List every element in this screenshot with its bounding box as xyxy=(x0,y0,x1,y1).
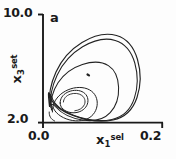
entry-tail xyxy=(49,112,54,121)
x-axis-tick-label-min: 0.0 xyxy=(28,130,49,143)
y-axis-tick-label-min: 2.0 xyxy=(7,113,28,126)
y-axis-tick-label-max: 10.0 xyxy=(3,7,32,20)
y-axis-title-base: x xyxy=(9,75,24,83)
y-axis-title-subscript: 3 xyxy=(16,69,26,75)
x-axis-title-subscript: 1 xyxy=(104,139,110,149)
x-axis-title: x1sel xyxy=(96,133,124,148)
x-axis-title-superscript: sel xyxy=(111,132,124,142)
y-axis-title: x3set xyxy=(10,46,25,92)
inner-orbit-inner-turn xyxy=(63,93,85,110)
outer-orbit-2 xyxy=(50,39,137,120)
focus-marker xyxy=(88,75,90,76)
figure-phase-portrait: 10.0 2.0 0.0 0.2 x1sel x3set a xyxy=(0,0,176,159)
y-axis-title-superscript: set xyxy=(9,55,19,69)
trajectory-curves xyxy=(48,34,140,121)
panel-label: a xyxy=(50,11,59,24)
x-axis-tick-label-max: 0.2 xyxy=(140,130,161,143)
middle-orbit xyxy=(51,62,118,120)
